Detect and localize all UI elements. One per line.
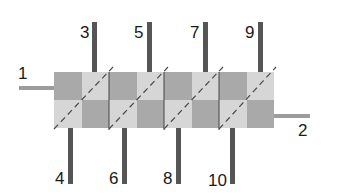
label-bottom-pin-10: 10: [208, 171, 227, 190]
label-output-lead: 2: [298, 121, 307, 140]
label-bottom-pin-8: 8: [163, 169, 172, 188]
bottom-pin-4: [68, 128, 73, 184]
block-2: [109, 67, 168, 129]
top-pin-3: [92, 22, 97, 72]
label-top-pin-7: 7: [190, 23, 199, 42]
bottom-pin-10: [230, 128, 235, 184]
bottom-pin-8: [176, 128, 181, 184]
top-pin-5: [147, 22, 152, 72]
label-top-pin-5: 5: [134, 23, 143, 42]
block-3: [164, 67, 223, 129]
input-lead: [19, 86, 55, 90]
block-4: [219, 67, 276, 129]
label-bottom-pin-4: 4: [55, 169, 64, 188]
bottom-pin-6: [122, 128, 127, 184]
top-pin-9: [258, 22, 263, 72]
label-input-lead: 1: [18, 64, 27, 83]
output-lead: [274, 114, 310, 118]
top-pin-7: [203, 22, 208, 72]
checkerboard-cascade-diagram: 1 2 3 5 7 9: [0, 0, 338, 194]
block-1: [54, 67, 113, 129]
label-bottom-pin-6: 6: [109, 169, 118, 188]
label-top-pin-9: 9: [245, 23, 254, 42]
label-top-pin-3: 3: [80, 23, 89, 42]
